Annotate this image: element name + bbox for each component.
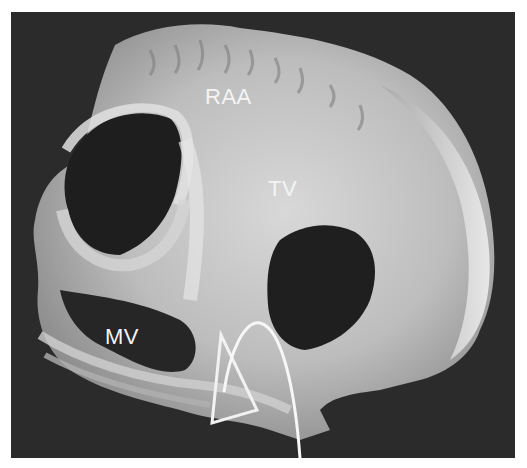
label-mv: MV [105, 324, 139, 350]
specimen-illustration [11, 12, 515, 458]
label-tv: TV [268, 176, 297, 202]
heart-specimen-photo: RAA TV MV [11, 12, 515, 458]
label-raa: RAA [205, 84, 252, 110]
